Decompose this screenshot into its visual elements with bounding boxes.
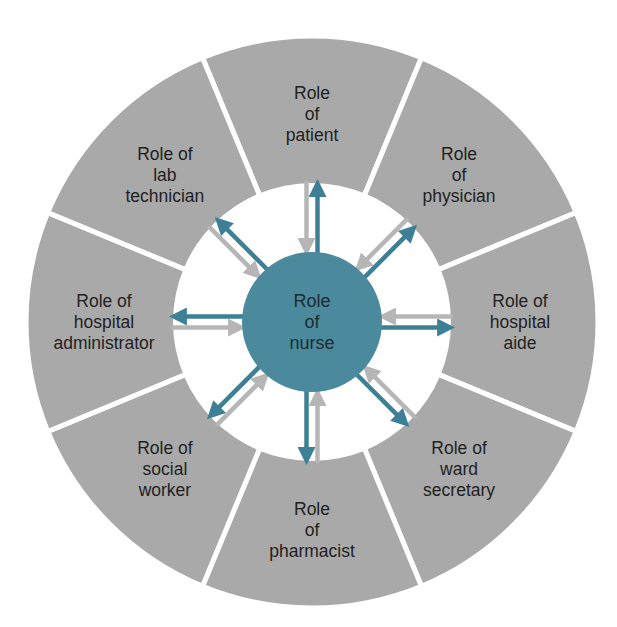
label-social-worker: Role ofsocialworker xyxy=(137,438,193,500)
role-relationship-diagram: RoleofpatientRoleofphysicianRole ofhospi… xyxy=(0,0,617,627)
